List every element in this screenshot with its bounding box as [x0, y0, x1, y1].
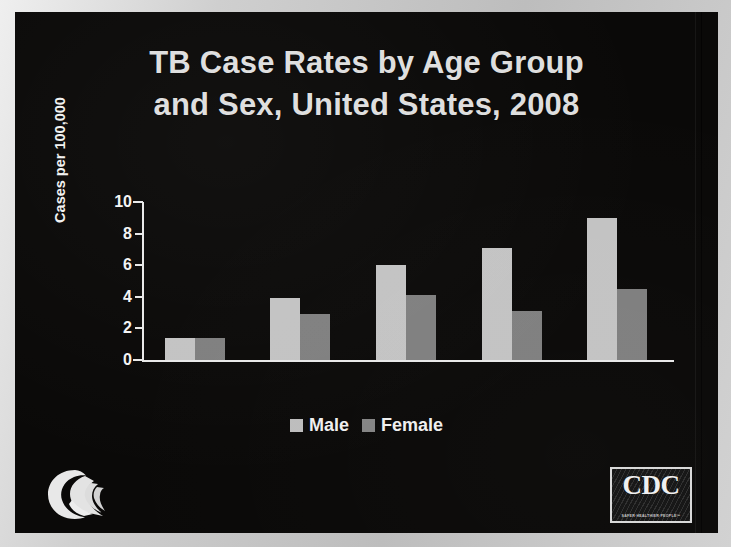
bar-group [482, 202, 542, 360]
square-swatch-icon [362, 419, 375, 432]
bar-male [165, 338, 195, 360]
plot-area: 0246810 [142, 202, 670, 360]
bar-chart: Cases per 100,000 0246810 <15 yrs15–24 y… [60, 182, 680, 377]
cdc-logo-frame: CDC SAFER·HEALTHIER·PEOPLE™ [610, 467, 692, 523]
y-axis-tick [135, 233, 143, 235]
bar-group [165, 202, 225, 360]
cdc-logo-tagline: SAFER·HEALTHIER·PEOPLE™ [616, 514, 686, 518]
bar-male [376, 265, 406, 360]
bar-female [617, 289, 647, 360]
cdc-logo-icon: CDC SAFER·HEALTHIER·PEOPLE™ [610, 467, 692, 523]
cdc-logo-text: CDC [612, 471, 690, 499]
legend-item-female: Female [362, 416, 443, 434]
y-axis-tick [133, 201, 143, 203]
y-axis-label: Cases per 100,000 [52, 80, 72, 240]
screenshot-canvas: TB Case Rates by Age Group and Sex, Unit… [0, 0, 731, 547]
y-axis-tick [135, 327, 143, 329]
legend-label: Male [309, 416, 349, 434]
bar-female [512, 311, 542, 360]
legend-label: Female [381, 416, 443, 434]
y-axis-tick-label: 2 [123, 320, 132, 336]
y-axis-tick-label: 10 [114, 194, 132, 210]
slide-title-line-2: and Sex, United States, 2008 [15, 84, 718, 126]
bar-male [482, 248, 512, 360]
x-axis-line [142, 360, 674, 362]
y-axis-tick-label: 6 [123, 257, 132, 273]
slide-title-line-1: TB Case Rates by Age Group [149, 45, 584, 80]
hhs-eagle-logo-icon [45, 467, 107, 522]
bar-female [195, 338, 225, 360]
bar-female [406, 295, 436, 360]
bar-group [587, 202, 647, 360]
chart-legend: MaleFemale [15, 416, 718, 434]
bar-female [300, 314, 330, 360]
legend-item-male: Male [290, 416, 349, 434]
y-axis-tick-label: 0 [123, 352, 132, 368]
slide-title: TB Case Rates by Age Group and Sex, Unit… [15, 42, 718, 125]
y-axis-tick-label: 8 [123, 226, 132, 242]
square-swatch-icon [290, 419, 303, 432]
y-axis-tick-label: 4 [123, 289, 132, 305]
bar-male [270, 298, 300, 360]
bar-male [587, 218, 617, 360]
y-axis-tick [133, 359, 143, 361]
bar-group [270, 202, 330, 360]
y-axis-tick [135, 296, 143, 298]
bar-group [376, 202, 436, 360]
y-axis-tick [135, 264, 143, 266]
y-axis-line [142, 202, 144, 360]
presentation-slide: TB Case Rates by Age Group and Sex, Unit… [15, 12, 718, 533]
